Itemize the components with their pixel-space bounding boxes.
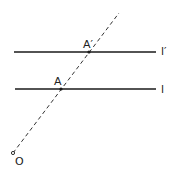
diagram-canvas xyxy=(0,0,179,174)
label-l-prime: l′ xyxy=(161,46,167,57)
label-a: A xyxy=(54,76,62,87)
label-l: l xyxy=(161,84,164,95)
dashed-ray-from-o xyxy=(13,13,119,153)
label-a-prime: A′ xyxy=(83,39,93,50)
label-o: O xyxy=(15,156,24,167)
